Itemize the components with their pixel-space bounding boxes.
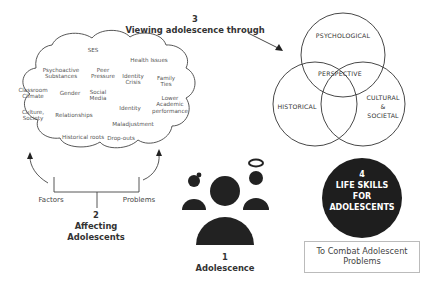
cloud-shape bbox=[23, 30, 195, 147]
section4-line1: LIFE SKILLS bbox=[336, 181, 389, 191]
section4-line3: ADOLESCENTS bbox=[329, 203, 394, 213]
arrowhead-icon bbox=[27, 152, 33, 159]
cloud-term-maladjustment: Maladjustment bbox=[112, 121, 154, 127]
cloud-term-social-media: Social Media bbox=[90, 89, 107, 102]
venn-label-psychological: PSYCHOLOGICAL bbox=[316, 32, 370, 39]
section1-number: 1 bbox=[222, 253, 228, 263]
cloud-term-identity-crisis: Identity Crisis bbox=[122, 73, 143, 86]
factors-label: Factors bbox=[38, 196, 63, 204]
problems-arrow bbox=[143, 155, 159, 180]
cloud-term-gender: Gender bbox=[60, 90, 81, 96]
cloud-term-identity: Identity bbox=[119, 105, 140, 111]
problems-label: Problems bbox=[123, 196, 155, 204]
venn-circle-psychological bbox=[301, 13, 385, 97]
cloud-term-lower-academic: Lower Academic performance bbox=[152, 95, 188, 114]
section2-title-line2: Adolescents bbox=[67, 233, 124, 243]
section3-title: Viewing adolescence through bbox=[125, 26, 264, 36]
cloud-term-family: Family Ties bbox=[157, 75, 175, 88]
cloud-term-classroom: Classroom Climate bbox=[18, 87, 47, 100]
cloud-term-dropouts: Drop-outs bbox=[107, 135, 135, 141]
venn-label-perspective: PERSPECTIVE bbox=[318, 70, 362, 77]
combat-caption: To Combat Adolescent Problems bbox=[314, 247, 410, 267]
venn-label-cultural-3: SOCIETAL bbox=[367, 112, 398, 119]
cloud-term-historical-roots: Historical roots bbox=[62, 134, 104, 140]
venn-label-historical: HISTORICAL bbox=[277, 103, 316, 110]
factors-arrow bbox=[30, 157, 48, 183]
section1-title: Adolescence bbox=[195, 264, 254, 274]
section2-title-line1: Affecting bbox=[75, 222, 118, 232]
arrowhead-icon bbox=[156, 149, 162, 156]
cloud-term-relationships: Relationships bbox=[55, 112, 92, 118]
venn-label-cultural-2: & bbox=[380, 103, 385, 110]
section3-number: 3 bbox=[192, 15, 198, 25]
section2-number: 2 bbox=[93, 211, 99, 221]
cloud-term-psychoactive: Psychoactive Substances bbox=[43, 67, 80, 80]
cloud-term-peer: Peer Pressure bbox=[91, 67, 115, 80]
section4-number: 4 bbox=[359, 170, 365, 180]
cloud-term-ses: SES bbox=[88, 47, 99, 53]
cloud-term-health: Health Issues bbox=[130, 57, 168, 63]
section4-line2: FOR bbox=[353, 192, 371, 202]
cloud-term-culture: Culture, Society bbox=[22, 109, 44, 122]
venn-label-cultural-1: CULTURAL bbox=[366, 94, 399, 101]
adolescence-people-icon bbox=[182, 160, 269, 246]
combat-problems-box: To Combat Adolescent Problems bbox=[304, 241, 420, 273]
